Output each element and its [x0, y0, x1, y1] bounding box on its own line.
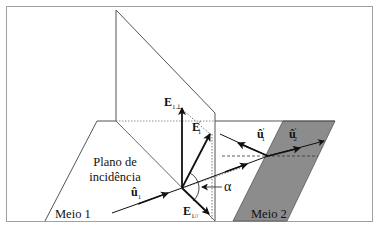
- u-transmitted-sub: 2: [293, 135, 297, 143]
- angle-alpha-label: α: [224, 180, 231, 194]
- diagram-stage: Plano de incidência Meio 1 Meio 2 α E1⊥ …: [0, 0, 378, 230]
- e-total-sub: 1: [198, 128, 202, 136]
- e-perp-label: E1⊥: [164, 96, 182, 111]
- u-incident-base: û: [131, 185, 138, 199]
- ray-to-interface-arrow: [225, 164, 247, 172]
- e-parallel-sub: 1//: [191, 212, 198, 220]
- u-reflected-sub: 1: [261, 135, 265, 143]
- u-incident-sub: 1: [138, 193, 142, 201]
- e-perp-base: E: [164, 95, 172, 109]
- medium2-region: [233, 121, 335, 221]
- medium1-label: Meio 1: [55, 208, 91, 221]
- e-perp-sub: 1⊥: [172, 103, 182, 111]
- e-parallel-base: E: [183, 204, 191, 218]
- incident-unit-vector: [138, 193, 168, 204]
- plane-of-incidence-line1: Plano de: [84, 156, 146, 169]
- e-total-label: E′1: [192, 121, 201, 136]
- e-parallel-label: E1//: [183, 205, 198, 220]
- diagram-canvas: [0, 0, 378, 230]
- reflected-unit-vector: [238, 143, 268, 156]
- u-incident-label: û1: [131, 186, 141, 201]
- medium2-label: Meio 2: [251, 208, 287, 221]
- plane-of-incidence-label: Plano de incidência: [84, 156, 146, 183]
- plane-of-incidence-line2: incidência: [84, 171, 146, 184]
- u-reflected-label: û′1: [257, 128, 265, 143]
- u-transmitted-label: û′2: [289, 128, 297, 143]
